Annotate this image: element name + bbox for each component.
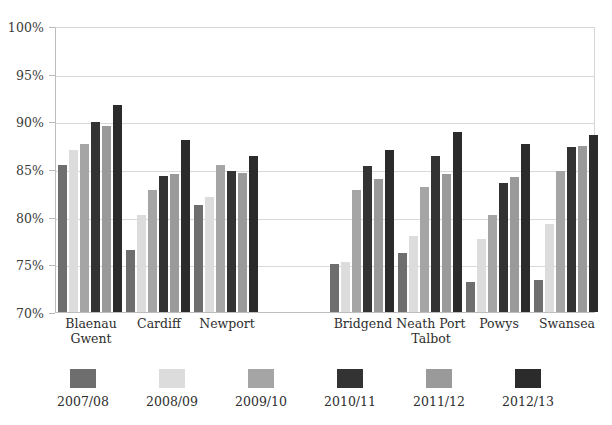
y-axis-tick-label: 70% [16,306,44,321]
bar[interactable] [69,150,78,312]
y-axis-tick-label: 90% [16,115,44,130]
bar-group [194,28,262,312]
bar[interactable] [194,205,203,312]
bar[interactable] [420,187,429,312]
bar[interactable] [341,262,350,312]
legend-color-swatch [248,369,274,388]
bar[interactable] [363,166,372,312]
bar[interactable] [330,264,339,312]
bar[interactable] [567,147,576,312]
legend-item[interactable]: 2011/12 [396,369,482,409]
legend-item[interactable]: 2007/08 [40,369,126,409]
bar[interactable] [91,122,100,312]
bar-group [398,28,466,312]
x-axis-category-label: Swansea [524,316,610,331]
grouped-bar-chart: 100%95%90%85%80%75%70% Blaenau GwentCard… [0,0,612,425]
bar[interactable] [80,144,89,312]
legend-label: 2011/12 [396,394,482,409]
x-axis-category-label: Newport [184,316,270,331]
bar-group [126,28,194,312]
bar[interactable] [442,174,451,312]
bar[interactable] [170,174,179,312]
y-axis: 100%95%90%85%80%75%70% [0,0,52,330]
legend-label: 2008/09 [129,394,215,409]
bar[interactable] [205,197,214,312]
bar[interactable] [510,177,519,312]
bar[interactable] [249,156,258,312]
legend-color-swatch [159,369,185,388]
bar[interactable] [545,224,554,312]
bar-group [534,28,602,312]
legend-label: 2007/08 [40,394,126,409]
bar[interactable] [102,126,111,312]
bar[interactable] [238,173,247,312]
bar[interactable] [488,215,497,312]
bar[interactable] [556,171,565,312]
bar-group [466,28,534,312]
legend-item[interactable]: 2008/09 [129,369,215,409]
y-axis-tick-label: 80% [16,210,44,225]
bar[interactable] [148,190,157,312]
legend-color-swatch [70,369,96,388]
legend-color-swatch [515,369,541,388]
bar[interactable] [374,179,383,312]
bar[interactable] [453,132,462,312]
legend-label: 2012/13 [485,394,571,409]
bar[interactable] [398,253,407,312]
legend-label: 2010/11 [307,394,393,409]
bar[interactable] [521,144,530,312]
bar[interactable] [431,156,440,312]
bar[interactable] [137,215,146,312]
bar[interactable] [58,165,67,312]
bars-layer [56,28,594,312]
bar[interactable] [499,183,508,312]
bar[interactable] [589,135,598,312]
bar[interactable] [477,239,486,312]
y-axis-tick-mark [49,313,55,314]
chart-legend: 2007/082008/092009/102010/112011/122012/… [40,369,580,419]
bar[interactable] [352,190,361,312]
x-axis: Blaenau GwentCardiffNewportBridgendNeath… [55,316,595,361]
bar[interactable] [181,140,190,312]
bar[interactable] [126,250,135,312]
bar[interactable] [578,146,587,312]
legend-label: 2009/10 [218,394,304,409]
legend-item[interactable]: 2012/13 [485,369,571,409]
y-axis-tick-label: 95% [16,67,44,82]
bar[interactable] [113,105,122,312]
bar-group [330,28,398,312]
y-axis-tick-label: 75% [16,258,44,273]
bar[interactable] [385,150,394,312]
bar[interactable] [227,171,236,312]
bar[interactable] [409,236,418,312]
bar-group [262,28,330,312]
bar[interactable] [466,282,475,312]
legend-item[interactable]: 2009/10 [218,369,304,409]
y-axis-tick-label: 100% [8,20,44,35]
bar[interactable] [216,165,225,312]
bar[interactable] [534,280,543,312]
bar[interactable] [159,176,168,312]
plot-area [55,27,595,313]
legend-color-swatch [426,369,452,388]
y-axis-tick-label: 85% [16,163,44,178]
legend-color-swatch [337,369,363,388]
legend-item[interactable]: 2010/11 [307,369,393,409]
bar-group [58,28,126,312]
